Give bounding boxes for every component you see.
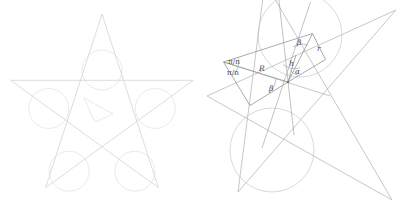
star-chord [46,14,102,188]
label-h-height: h [289,59,294,68]
inscribed-circle [135,89,175,129]
label-alpha: α [295,67,300,76]
star-chord [238,10,396,192]
apex-point [287,81,290,84]
star-chord [265,0,392,200]
pentagram-overview [11,14,194,191]
star-chord [11,80,159,187]
label-beta-lower: β [268,84,274,93]
label-pi-over-n-upper: π/n [228,57,240,66]
ray-through-apex-b [262,2,311,148]
star-chord [102,14,158,188]
inscribed-circles-right [230,0,342,192]
star-chord [46,80,194,187]
inscribed-circle [29,89,69,129]
ray-through-apex-c [224,62,331,96]
geometry-scene: π/n π/n R β β h α r [0,0,406,211]
star-polygon-left [11,14,194,188]
star-chord [207,10,396,96]
inscribed-circles-left [29,50,176,191]
pentagram-detail: π/n π/n R β β h α r [207,0,396,200]
detail-circle-lower [230,108,314,192]
construction-lines [224,0,331,148]
label-pi-over-n-lower: π/n [227,68,239,77]
label-big-r: R [258,64,265,73]
inner-marker-left [84,98,113,122]
star-chord [207,96,392,200]
star-chord [238,0,265,192]
label-beta-upper: β [296,38,302,47]
label-small-r: r [317,44,321,53]
diagram-canvas: π/n π/n R β β h α r [0,0,406,211]
